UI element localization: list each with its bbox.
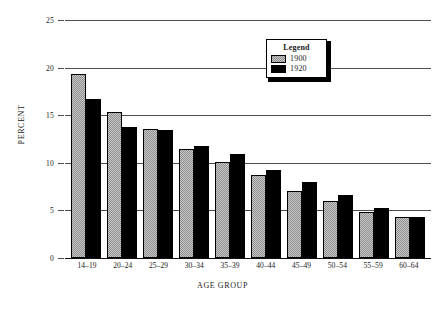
bar-1920-35-39	[230, 154, 245, 258]
y-axis-tick	[58, 20, 64, 21]
x-axis-tick-label: 30–34	[178, 261, 210, 270]
y-axis-tick	[58, 258, 64, 259]
x-axis-tick-label: 45–49	[286, 261, 318, 270]
bar-1920-55-59	[374, 208, 389, 258]
x-axis-tick-label: 20–24	[107, 261, 139, 270]
bar-group	[323, 20, 353, 258]
y-axis-title: PERCENT	[17, 85, 26, 165]
bar-1920-25-29	[158, 130, 173, 258]
y-axis-tick-label: 5	[50, 206, 54, 215]
bar-groups	[65, 20, 431, 258]
gray-hatch-swatch	[271, 55, 286, 63]
bar-1900-14-19	[71, 74, 86, 258]
bar-group	[395, 20, 425, 258]
bar-1920-30-34	[194, 146, 209, 258]
bar-1900-25-29	[143, 129, 158, 258]
bar-1900-40-44	[251, 175, 266, 258]
y-axis-tick	[58, 163, 64, 164]
bar-group	[215, 20, 245, 258]
bar-1900-35-39	[215, 162, 230, 258]
y-axis-tick	[58, 115, 64, 116]
y-axis-tick-label: 0	[50, 254, 54, 263]
bar-group	[359, 20, 389, 258]
bar-1920-14-19	[86, 99, 101, 258]
x-axis-tick-label: 14–19	[71, 261, 103, 270]
y-axis-tick-label: 25	[46, 16, 54, 25]
bar-1900-30-34	[179, 149, 194, 258]
bar-1920-45-49	[302, 182, 317, 258]
legend-item-1920: 1920	[271, 64, 322, 73]
legend-item-label: 1900	[290, 54, 307, 63]
x-axis-tick-label: 50–54	[321, 261, 353, 270]
y-axis-tick	[58, 210, 64, 211]
bar-group	[71, 20, 101, 258]
bar-1900-55-59	[359, 212, 374, 258]
legend-entries: 19001920	[271, 54, 322, 73]
x-axis-tick-label: 60–64	[393, 261, 425, 270]
x-axis-tick-label: 35–39	[214, 261, 246, 270]
y-axis-tick	[58, 68, 64, 69]
bar-1900-20-24	[107, 112, 122, 258]
bar-1900-60-64	[395, 217, 410, 258]
x-axis-baseline	[65, 258, 431, 260]
bar-group	[107, 20, 137, 258]
plot-area: 0510152025	[65, 20, 431, 258]
legend-item-label: 1920	[290, 64, 307, 73]
x-axis-tick-label: 40–44	[250, 261, 282, 270]
bar-1900-45-49	[287, 191, 302, 258]
bar-group	[143, 20, 173, 258]
legend-title: Legend	[271, 43, 322, 52]
bar-1900-50-54	[323, 201, 338, 258]
bar-1920-20-24	[122, 127, 137, 258]
x-axis-tick-label: 25–29	[143, 261, 175, 270]
x-axis-title: AGE GROUP	[0, 281, 445, 290]
y-axis-tick-label: 20	[46, 63, 54, 72]
x-axis-tick-label: 55–59	[357, 261, 389, 270]
y-axis-tick-label: 15	[46, 111, 54, 120]
bar-1920-50-54	[338, 195, 353, 258]
bar-chart-figure: PERCENT 0510152025 14–1920–2425–2930–343…	[0, 0, 445, 311]
bar-group	[179, 20, 209, 258]
bar-1920-60-64	[410, 217, 425, 258]
legend-box: Legend 19001920	[266, 39, 327, 78]
x-axis-tick-labels: 14–1920–2425–2930–3435–3940–4445–4950–54…	[65, 261, 431, 270]
y-axis-tick-label: 10	[46, 158, 54, 167]
black-swatch	[271, 65, 286, 73]
legend-item-1900: 1900	[271, 54, 322, 63]
bar-1920-40-44	[266, 170, 281, 258]
